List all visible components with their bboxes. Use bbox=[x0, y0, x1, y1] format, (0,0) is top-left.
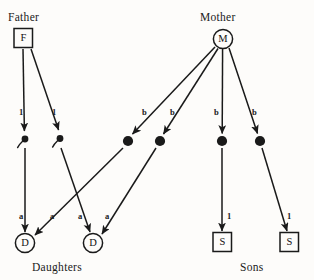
edge-label-mother-to-ovum-3: b bbox=[214, 108, 219, 117]
son-1-symbol-label: S bbox=[213, 237, 232, 248]
sons-caption: Sons bbox=[240, 262, 264, 274]
daughter-1-symbol-label: D bbox=[15, 238, 35, 249]
edge-label-sperm-1-to-daughter-1: a bbox=[19, 212, 23, 221]
father-symbol-label: F bbox=[14, 33, 33, 44]
ovum-1-icon bbox=[123, 136, 133, 146]
daughter-2-symbol-label: D bbox=[83, 238, 103, 249]
edge-label-ovum-3-to-son-1: 1 bbox=[227, 212, 231, 221]
edge-label-mother-to-ovum-1: b bbox=[142, 108, 147, 117]
mother-symbol-label: M bbox=[213, 34, 233, 45]
edge-label-mother-to-ovum-4: b bbox=[252, 108, 257, 117]
daughters-caption: Daughters bbox=[32, 262, 82, 274]
ovum-3-icon bbox=[217, 136, 227, 146]
diagram-canvas bbox=[0, 0, 314, 280]
inheritance-diagram: Father Mother F M D D S S Daughters Sons… bbox=[0, 0, 314, 280]
ovum-2-icon bbox=[155, 136, 165, 146]
father-title: Father bbox=[8, 12, 39, 24]
sperm-2-icon bbox=[53, 135, 64, 147]
mother-title: Mother bbox=[200, 12, 236, 24]
edge-sperm-2-to-daughter-2 bbox=[61, 148, 90, 232]
edge-label-mother-to-ovum-2: b bbox=[170, 108, 175, 117]
edge-label-ovum-1-to-daughter-1: a bbox=[50, 212, 54, 221]
edge-mother-to-ovum-4 bbox=[229, 48, 258, 134]
ovum-4-icon bbox=[255, 136, 265, 146]
edge-father-to-sperm-2 bbox=[31, 49, 59, 130]
edge-label-father-to-sperm-1: 1 bbox=[19, 108, 23, 117]
son-2-symbol-label: S bbox=[280, 237, 299, 248]
edge-label-ovum-4-to-son-2: 1 bbox=[287, 212, 291, 221]
edge-mother-to-ovum-2 bbox=[164, 49, 219, 135]
edge-father-to-sperm-1 bbox=[23, 49, 24, 131]
edge-mother-to-ovum-1 bbox=[133, 47, 216, 134]
edge-label-father-to-sperm-2: 1 bbox=[52, 108, 56, 117]
edge-label-ovum-2-to-daughter-2: a bbox=[105, 212, 109, 221]
sperm-1-icon bbox=[18, 136, 29, 148]
edge-ovum-4-to-son-2 bbox=[262, 148, 287, 231]
edge-label-sperm-2-to-daughter-2: a bbox=[78, 212, 82, 221]
